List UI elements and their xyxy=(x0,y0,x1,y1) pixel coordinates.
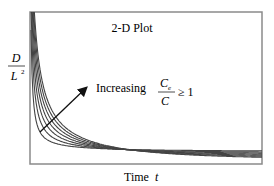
annotation-label: Increasing C e C ≥ 1 xyxy=(96,76,194,108)
svg-text:t: t xyxy=(155,170,159,184)
svg-text:≥ 1: ≥ 1 xyxy=(178,85,194,99)
svg-text:Increasing: Increasing xyxy=(96,81,146,95)
chart-canvas: 2-D Plot D L 2 Increasing C e C ≥ 1 Time… xyxy=(0,0,274,186)
svg-text:Time: Time xyxy=(124,170,149,184)
chart-title: 2-D Plot xyxy=(111,21,153,35)
svg-text:2: 2 xyxy=(21,68,25,76)
svg-text:L: L xyxy=(10,69,18,83)
svg-text:D: D xyxy=(11,51,21,65)
svg-text:C: C xyxy=(161,94,170,108)
x-axis-label: Time t xyxy=(124,170,159,184)
svg-text:e: e xyxy=(168,84,171,92)
y-axis-label: D L 2 xyxy=(8,51,25,83)
curve-line xyxy=(31,30,262,151)
